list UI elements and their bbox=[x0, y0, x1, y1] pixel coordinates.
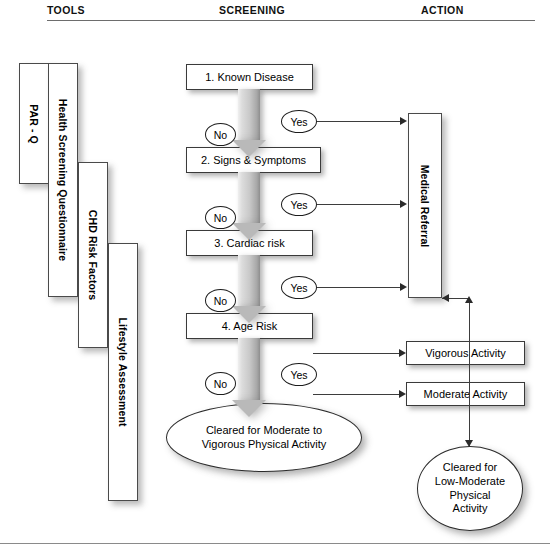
outcome-low-moderate-line3: Physical bbox=[435, 489, 505, 503]
decision-no-label-1: No bbox=[205, 123, 236, 146]
tool-label-chd-risk-factors: CHD Risk Factors bbox=[87, 210, 99, 300]
connector-yes-3 bbox=[317, 287, 401, 288]
action-label-moderate-activity: Moderate Activity bbox=[424, 388, 508, 401]
connector-yes-2-arrowhead bbox=[400, 200, 407, 208]
tool-label-lifestyle-assessment: Lifestyle Assessment bbox=[117, 318, 129, 427]
action-box-medical-referral[interactable]: Medical Referral bbox=[408, 113, 442, 298]
decision-yes-label-3: Yes bbox=[281, 276, 317, 299]
connector-activity-to-referral-vertical bbox=[469, 298, 470, 414]
decision-yes-label-1: Yes bbox=[281, 110, 317, 133]
tool-label-health-screening-questionnaire: Health Screening Questionnaire bbox=[57, 99, 69, 261]
outcome-ellipse-low-moderate: Cleared for Low-Moderate Physical Activi… bbox=[417, 446, 523, 531]
connector-referral-up-arrowhead bbox=[465, 296, 473, 303]
action-label-medical-referral: Medical Referral bbox=[419, 164, 431, 247]
tool-label-par-q: PAR - Q bbox=[28, 104, 40, 144]
connector-activity-to-referral-arrowhead bbox=[442, 294, 449, 302]
action-box-vigorous-activity[interactable]: Vigorous Activity bbox=[406, 341, 525, 365]
connector-yes-1 bbox=[317, 121, 401, 122]
connector-yes-2 bbox=[317, 204, 401, 205]
connector-yes-4-vigorous-arrowhead bbox=[399, 349, 406, 357]
header-divider bbox=[47, 20, 535, 21]
action-label-vigorous-activity: Vigorous Activity bbox=[425, 347, 506, 360]
column-header-tools: TOOLS bbox=[47, 4, 85, 16]
column-header-screening: SCREENING bbox=[219, 4, 285, 16]
decision-yes-label-4: Yes bbox=[281, 363, 317, 386]
outcome-low-moderate-line4: Activity bbox=[435, 502, 505, 516]
connector-yes-4-moderate bbox=[313, 394, 400, 395]
connector-moderate-to-outcome-arrowhead bbox=[465, 440, 473, 447]
decision-no-label-4: No bbox=[205, 372, 236, 395]
column-header-action: ACTION bbox=[421, 4, 464, 16]
connector-yes-3-arrowhead bbox=[400, 283, 407, 291]
connector-yes-4-moderate-arrowhead bbox=[399, 390, 406, 398]
footer-divider bbox=[0, 543, 550, 544]
screening-step-1-label: 1. Known Disease bbox=[205, 71, 294, 84]
tool-box-chd-risk-factors[interactable]: CHD Risk Factors bbox=[78, 162, 108, 348]
connector-yes-1-arrowhead bbox=[400, 117, 407, 125]
decision-no-label-2: No bbox=[205, 206, 236, 229]
tool-box-lifestyle-assessment[interactable]: Lifestyle Assessment bbox=[108, 243, 138, 501]
connector-yes-4-vigorous bbox=[313, 353, 400, 354]
action-box-moderate-activity[interactable]: Moderate Activity bbox=[406, 382, 525, 406]
tool-box-par-q[interactable]: PAR - Q bbox=[19, 63, 49, 184]
outcome-low-moderate-line1: Cleared for bbox=[435, 461, 505, 475]
tool-box-health-screening-questionnaire[interactable]: Health Screening Questionnaire bbox=[48, 63, 78, 297]
outcome-low-moderate-line2: Low-Moderate bbox=[435, 475, 505, 489]
outcome-moderate-vigorous-line2: Vigorous Physical Activity bbox=[202, 438, 327, 452]
decision-no-label-3: No bbox=[205, 289, 236, 312]
screening-step-1-known-disease[interactable]: 1. Known Disease bbox=[186, 64, 313, 90]
outcome-moderate-vigorous-line1: Cleared for Moderate to bbox=[202, 424, 327, 438]
decision-yes-label-2: Yes bbox=[281, 193, 317, 216]
flowchart-canvas: TOOLS SCREENING ACTION PAR - Q Health Sc… bbox=[0, 0, 556, 558]
